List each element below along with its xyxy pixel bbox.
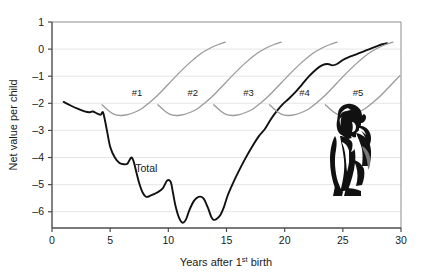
y-axis-title: Net value per child: [7, 79, 19, 170]
y-tick-label-1: 1: [38, 16, 44, 28]
child-4-label: #4: [299, 87, 310, 98]
x-axis-title-tail: birth: [248, 256, 272, 268]
mother-child-illustration-art: [318, 100, 380, 198]
x-tick-label-5: 5: [107, 234, 113, 246]
x-axis-title-main: Years after 1: [180, 256, 242, 268]
chart-container: 10–1–2–3–4–5–6051015202530 Total#1#2#3#4…: [0, 0, 426, 275]
series-line-child-2: [158, 42, 281, 115]
y-tick-label--4: –4: [32, 151, 44, 163]
total-label: Total: [135, 162, 157, 174]
child-1-label: #1: [132, 87, 143, 98]
child-3-label: #3: [243, 87, 254, 98]
series-line-child-1: [102, 42, 225, 115]
y-tick-label--2: –2: [32, 97, 44, 109]
y-tick-label--1: –1: [32, 70, 44, 82]
x-tick-label-0: 0: [49, 234, 55, 246]
x-tick-label-25: 25: [337, 234, 349, 246]
y-tick-label--6: –6: [32, 205, 44, 217]
y-tick-label--3: –3: [32, 124, 44, 136]
y-tick-label-0: 0: [38, 43, 44, 55]
x-tick-label-30: 30: [395, 234, 407, 246]
mother-child-illustration: [318, 100, 380, 198]
child-2-label: #2: [187, 87, 198, 98]
x-axis-title: Years after 1st birth: [180, 255, 272, 268]
x-tick-label-15: 15: [221, 234, 233, 246]
y-tick-label--5: –5: [32, 178, 44, 190]
child-5-label: #5: [353, 87, 364, 98]
x-tick-label-10: 10: [162, 234, 174, 246]
x-tick-label-20: 20: [279, 234, 291, 246]
